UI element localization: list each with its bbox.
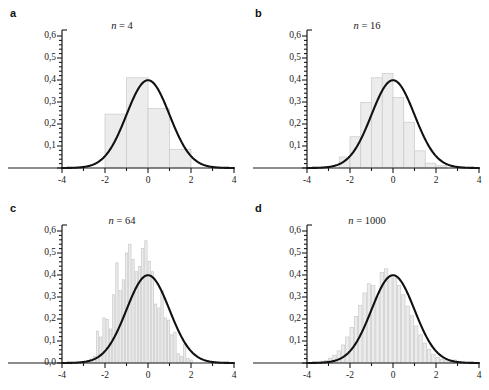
- histogram-bar: [103, 318, 105, 363]
- histogram-bar: [161, 290, 163, 363]
- histogram-bar: [415, 326, 418, 363]
- y-axis-tick-label: 0,5: [253, 52, 301, 62]
- x-axis-tick-label: -2: [336, 175, 364, 185]
- histogram-bar: [427, 349, 430, 363]
- histogram-bars: [87, 241, 193, 363]
- panel-a: an = 4-4-20240,10,20,30,40,50,6: [0, 0, 244, 195]
- histogram-bar: [397, 286, 400, 363]
- histogram-bar: [393, 278, 396, 363]
- x-axis-tick-label: -2: [91, 370, 119, 380]
- y-axis-tick-label: 0,4: [253, 74, 301, 84]
- panel-d: dn = 1000-4-20240,10,20,30,40,50,6: [245, 195, 489, 390]
- histogram-bar: [177, 354, 179, 363]
- histogram-bar: [167, 320, 169, 363]
- y-axis-tick-label: 0,6: [8, 30, 56, 40]
- x-axis-tick-label: -4: [48, 370, 76, 380]
- y-axis-tick-label: 0,2: [253, 118, 301, 128]
- y-axis-ticks: [57, 36, 62, 168]
- x-axis-ticks: [307, 363, 479, 368]
- histogram-bar: [106, 319, 108, 363]
- y-axis-tick-label: 0,3: [8, 96, 56, 106]
- y-axis-tick-label: 0,1: [8, 140, 56, 150]
- y-axis-tick-label: 0,6: [253, 30, 301, 40]
- histogram-bar: [402, 295, 405, 363]
- histogram-bar: [116, 263, 118, 363]
- x-axis-tick-label: 0: [379, 175, 407, 185]
- y-axis-tick-label: 0,1: [253, 140, 301, 150]
- x-axis-tick-label: 4: [465, 370, 489, 380]
- x-axis-tick-label: -4: [293, 175, 321, 185]
- x-axis-tick-label: 0: [134, 370, 162, 380]
- y-axis-tick-label: 0,1: [8, 335, 56, 345]
- x-axis-tick-label: 2: [422, 175, 450, 185]
- histogram-bar: [376, 297, 379, 363]
- x-axis-ticks: [307, 168, 479, 173]
- x-axis-tick-label: 2: [422, 370, 450, 380]
- histogram-bar: [393, 98, 404, 168]
- x-axis-tick-label: 0: [134, 175, 162, 185]
- y-axis-tick-label: 0,5: [8, 247, 56, 257]
- figure-central-limit-theorem: an = 4-4-20240,10,20,30,40,50,6bn = 16-4…: [0, 0, 489, 390]
- histogram-bar: [415, 151, 426, 168]
- histogram-bar: [158, 308, 160, 363]
- histogram-bar: [419, 335, 422, 363]
- x-axis-tick-label: 2: [177, 370, 205, 380]
- histogram-bar: [350, 327, 353, 363]
- x-axis-tick-label: 0: [379, 370, 407, 380]
- histogram-bar: [337, 351, 340, 363]
- panel-c: cn = 64-4-20240,00,10,20,30,40,50,6: [0, 195, 244, 390]
- x-axis-tick-label: -4: [293, 370, 321, 380]
- histogram-bar: [432, 354, 435, 363]
- histogram-bar: [174, 332, 176, 363]
- histogram-bar: [406, 306, 409, 363]
- y-axis-tick-label: 0,5: [8, 52, 56, 62]
- y-axis-tick-label: 0,3: [8, 291, 56, 301]
- histogram-bar: [341, 345, 344, 363]
- y-axis-tick-label: 0,1: [253, 335, 301, 345]
- x-axis-ticks: [62, 168, 234, 173]
- x-axis-tick-label: -4: [48, 175, 76, 185]
- histogram-bar: [367, 284, 370, 363]
- y-axis-tick-label: 0,0: [8, 357, 56, 367]
- x-axis-tick-label: -2: [336, 370, 364, 380]
- y-axis-ticks: [302, 36, 307, 168]
- histogram-bars: [339, 73, 447, 168]
- y-axis-tick-label: 0,6: [253, 225, 301, 235]
- histogram-bar: [171, 335, 173, 363]
- histogram-bar: [187, 359, 189, 363]
- y-axis-tick-label: 0,2: [8, 313, 56, 323]
- histogram-bar: [410, 316, 413, 363]
- histogram-bars: [320, 269, 461, 363]
- histogram-bar: [389, 277, 392, 363]
- histogram-bar: [183, 344, 185, 363]
- histogram-bar: [113, 295, 115, 363]
- histogram-bar: [425, 163, 436, 168]
- x-axis-ticks: [62, 363, 234, 368]
- y-axis-ticks: [302, 231, 307, 363]
- histogram-bar: [372, 286, 375, 363]
- y-axis-tick-label: 0,4: [253, 269, 301, 279]
- histogram-bar: [151, 272, 153, 363]
- x-axis-tick-label: 4: [220, 175, 248, 185]
- x-axis-tick-label: 4: [465, 175, 489, 185]
- histogram-bar: [142, 249, 144, 363]
- y-axis-tick-label: 0,4: [8, 74, 56, 84]
- histogram-bar: [423, 343, 426, 363]
- histogram-bar: [145, 241, 147, 363]
- y-axis-tick-label: 0,3: [253, 291, 301, 301]
- panel-b: bn = 16-4-20240,10,20,30,40,50,6: [245, 0, 489, 195]
- y-axis-tick-label: 0,2: [253, 313, 301, 323]
- y-axis-tick-label: 0,6: [8, 225, 56, 235]
- histogram-bar: [180, 356, 182, 363]
- y-axis-tick-label: 0,4: [8, 269, 56, 279]
- x-axis-tick-label: 2: [177, 175, 205, 185]
- histogram-bar: [154, 304, 156, 363]
- y-axis-tick-label: 0,3: [253, 96, 301, 106]
- histogram-bar: [164, 318, 166, 363]
- y-axis-ticks: [57, 231, 62, 363]
- histogram-bar: [436, 357, 439, 363]
- histogram-bar: [148, 109, 170, 168]
- histogram-bar: [100, 337, 102, 363]
- x-axis-tick-label: -2: [91, 175, 119, 185]
- x-axis-tick-label: 4: [220, 370, 248, 380]
